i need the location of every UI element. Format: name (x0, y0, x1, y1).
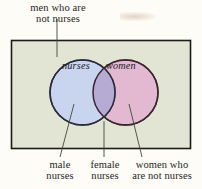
set-label-nurses: nurses (62, 60, 90, 71)
set-label-women: women (106, 60, 136, 71)
callout-women-not-nurses-line1: women who (124, 159, 200, 170)
venn-diagram-figure: men who are not nurses nurses women male… (0, 0, 202, 189)
callout-women-not-nurses: women who are not nurses (124, 159, 200, 182)
universe-label-line1: men who are (6, 2, 110, 13)
universe-label: men who are not nurses (6, 2, 110, 25)
callout-women-not-nurses-line2: are not nurses (124, 170, 200, 181)
universe-label-line2: not nurses (6, 13, 110, 24)
